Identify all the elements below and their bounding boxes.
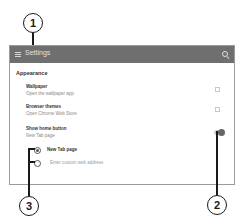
- search-icon[interactable]: [222, 51, 228, 57]
- callout-1-number: 1: [30, 17, 36, 29]
- setting-title: Wallpaper: [26, 84, 47, 89]
- hamburger-menu-icon[interactable]: [15, 52, 21, 57]
- callout-1: 1: [23, 13, 43, 33]
- settings-header: Settings: [10, 46, 234, 63]
- callout-3-line: [28, 148, 30, 196]
- callout-3: 3: [19, 196, 39, 216]
- radio-unchecked-icon[interactable]: [34, 160, 41, 167]
- toggle-knob: [218, 129, 225, 136]
- setting-subtitle: New Tab page: [26, 133, 55, 138]
- section-title-appearance: Appearance: [16, 70, 48, 76]
- setting-title: Show home button: [26, 126, 67, 131]
- settings-window: Settings Appearance Wallpaper Open the w…: [9, 45, 235, 185]
- setting-browser-themes[interactable]: Browser themes Open Chrome Web Store: [26, 104, 224, 120]
- setting-show-home-button: Show home button New Tab page: [26, 126, 224, 142]
- callout-2-line: [216, 131, 218, 196]
- custom-address-input[interactable]: Enter custom web address: [50, 160, 103, 165]
- setting-subtitle: Open Chrome Web Store: [26, 111, 77, 116]
- external-link-icon[interactable]: [215, 87, 220, 92]
- setting-title: Browser themes: [26, 104, 61, 109]
- radio-label: New Tab page: [47, 147, 77, 152]
- setting-wallpaper[interactable]: Wallpaper Open the wallpaper app: [26, 84, 224, 100]
- callout-2: 2: [207, 195, 227, 215]
- callout-2-number: 2: [214, 199, 220, 211]
- external-link-icon[interactable]: [215, 107, 220, 112]
- setting-subtitle: Open the wallpaper app: [26, 91, 74, 96]
- radio-checked-icon[interactable]: [34, 147, 41, 154]
- page-title: Settings: [25, 49, 50, 56]
- callout-3-number: 3: [26, 200, 32, 212]
